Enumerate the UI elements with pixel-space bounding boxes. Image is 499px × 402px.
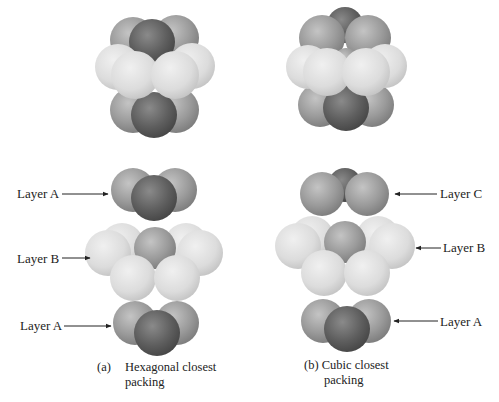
caption-ccp-line1: (b) Cubic closest [304,358,389,373]
label-ccp-layer-c: Layer C [440,186,482,201]
caption-ccp-line2: packing [324,373,364,388]
ccp-layer-b [275,216,415,296]
hcp-layer-b [85,223,223,301]
ccp-assembled-cluster [286,7,407,131]
hcp-layer-a-bottom [113,301,199,356]
label-hcp-layer-a-bottom: Layer A [20,318,62,333]
caption-marker-a: (a) [97,360,111,375]
label-ccp-layer-b: Layer B [443,240,485,255]
label-hcp-layer-b: Layer B [17,251,59,266]
hcp-assembled-cluster [95,15,215,138]
hcp-layer-a-top [111,168,197,221]
caption-hcp-line1: Hexagonal closest [125,360,216,375]
ccp-layer-c [300,168,389,216]
label-ccp-layer-a: Layer A [440,314,482,329]
caption-hcp-line2: packing [125,375,165,390]
label-hcp-layer-a-top: Layer A [17,186,59,201]
ccp-layer-a [301,299,391,352]
packing-diagram [0,0,499,402]
